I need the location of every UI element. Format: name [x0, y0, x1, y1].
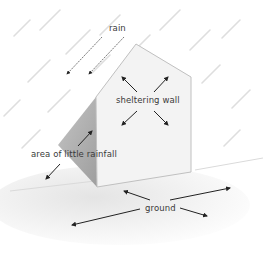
- label-area-of-little-rainfall: area of little rainfall: [31, 149, 117, 159]
- label-rain: rain: [109, 23, 126, 33]
- label-ground: ground: [145, 203, 176, 213]
- sheltering-wall: [96, 44, 191, 187]
- rain-shelter-illustration: [0, 0, 263, 259]
- label-sheltering-wall: sheltering wall: [116, 95, 180, 105]
